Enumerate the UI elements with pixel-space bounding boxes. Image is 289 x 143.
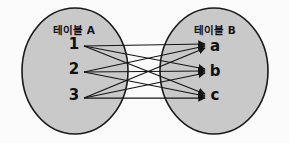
node-label-a: a — [210, 37, 220, 55]
node-label-2: 2 — [69, 60, 79, 78]
node-label-c: c — [211, 86, 220, 104]
table-a-nodes: 123 — [69, 35, 79, 104]
table-b-title: 테이블 B — [194, 24, 236, 36]
node-label-b: b — [210, 62, 221, 80]
node-label-1: 1 — [69, 35, 79, 53]
relationship-diagram: 테이블 A 테이블 B 123 abc — [0, 0, 289, 143]
node-label-3: 3 — [69, 86, 79, 104]
table-b-nodes: abc — [210, 37, 221, 104]
diagram-canvas: 테이블 A 테이블 B 123 abc — [0, 0, 289, 143]
